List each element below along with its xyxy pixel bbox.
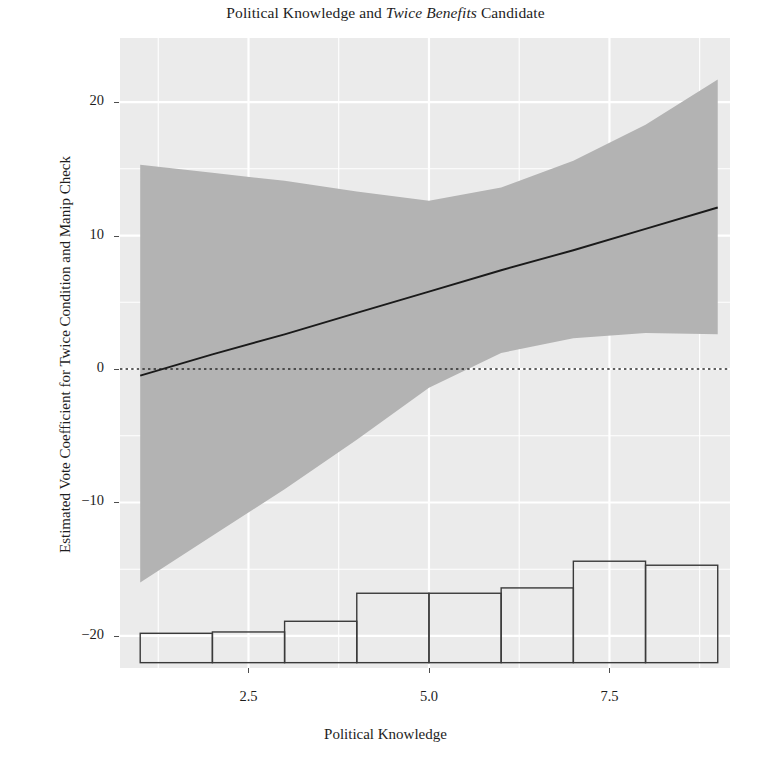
chart-title: Political Knowledge and Twice Benefits C… bbox=[0, 4, 771, 22]
y-tick-mark bbox=[114, 502, 119, 503]
y-tick-mark bbox=[114, 236, 119, 237]
y-tick-label: −10 bbox=[0, 492, 116, 509]
histogram-bar bbox=[285, 621, 357, 662]
histogram-bar bbox=[501, 588, 573, 663]
y-tick-label: 20 bbox=[0, 92, 116, 109]
y-tick-mark bbox=[114, 636, 119, 637]
plot-panel bbox=[120, 38, 730, 668]
histogram-bar bbox=[357, 593, 429, 662]
histogram-bar bbox=[140, 633, 212, 662]
x-axis-title: Political Knowledge bbox=[0, 726, 771, 743]
y-tick-label: 0 bbox=[0, 359, 116, 376]
y-tick-label: 10 bbox=[0, 226, 116, 243]
y-tick-mark bbox=[114, 369, 119, 370]
y-tick-mark bbox=[114, 102, 119, 103]
chart-title-part1: Political Knowledge and bbox=[226, 4, 386, 21]
chart-title-emphasis: Twice Benefits bbox=[386, 4, 477, 21]
chart-figure: Political Knowledge and Twice Benefits C… bbox=[0, 0, 771, 772]
histogram-bar bbox=[646, 565, 718, 662]
y-axis-title: Estimated Vote Coefficient for Twice Con… bbox=[57, 45, 74, 665]
histogram-bar bbox=[429, 593, 501, 662]
plot-area bbox=[120, 38, 730, 668]
x-tick-label: 7.5 bbox=[579, 688, 639, 705]
x-tick-mark bbox=[248, 668, 249, 673]
y-tick-label: −20 bbox=[0, 626, 116, 643]
x-tick-mark bbox=[429, 668, 430, 673]
x-tick-label: 5.0 bbox=[399, 688, 459, 705]
chart-title-part2: Candidate bbox=[477, 4, 545, 21]
x-tick-label: 2.5 bbox=[218, 688, 278, 705]
x-tick-mark bbox=[609, 668, 610, 673]
